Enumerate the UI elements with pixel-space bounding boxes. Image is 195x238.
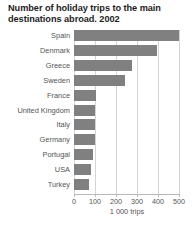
bar-fill xyxy=(74,30,179,41)
bar xyxy=(74,179,89,190)
x-axis-line xyxy=(74,194,180,195)
bar xyxy=(74,119,95,130)
x-tick-label: 300 xyxy=(131,197,143,206)
bar-fill xyxy=(74,149,93,160)
category-label: Germany xyxy=(0,134,70,145)
category-label: Italy xyxy=(0,119,70,130)
bar xyxy=(74,164,91,175)
category-label: Turkey xyxy=(0,179,70,190)
bar xyxy=(74,60,132,71)
bar-fill xyxy=(74,179,89,190)
x-tick-label: 200 xyxy=(110,197,122,206)
bar-fill xyxy=(74,134,95,145)
bar xyxy=(74,134,95,145)
x-axis-title: 1 000 trips xyxy=(74,207,180,216)
bar-fill xyxy=(74,90,96,101)
x-tick-label: 500 xyxy=(173,197,185,206)
category-label: USA xyxy=(0,164,70,175)
bar xyxy=(74,45,157,56)
bar xyxy=(74,75,125,86)
category-label: Sweden xyxy=(0,75,70,86)
bar-fill xyxy=(74,164,91,175)
bar xyxy=(74,30,179,41)
chart-title-line-2: destinations abroad. 2002 xyxy=(8,14,120,24)
category-label: Greece xyxy=(0,60,70,71)
category-label: United Kingdom xyxy=(0,105,70,116)
plot-area xyxy=(74,30,179,194)
chart-title-line-1: Number of holiday trips to the main xyxy=(8,3,161,13)
chart-title: Number of holiday trips to the main dest… xyxy=(8,3,190,26)
bar-fill xyxy=(74,119,95,130)
bar xyxy=(74,149,93,160)
bar xyxy=(74,105,95,116)
bar-fill xyxy=(74,45,157,56)
bar-chart: Number of holiday trips to the main dest… xyxy=(0,0,195,238)
category-label: France xyxy=(0,90,70,101)
x-tick-label: 400 xyxy=(152,197,164,206)
bar-fill xyxy=(74,75,125,86)
category-label: Denmark xyxy=(0,45,70,56)
bar-fill xyxy=(74,105,95,116)
x-tick-label: 100 xyxy=(89,197,101,206)
category-label: Spain xyxy=(0,30,70,41)
category-label: Portugal xyxy=(0,149,70,160)
x-tick-label: 0 xyxy=(72,197,76,206)
bar xyxy=(74,90,96,101)
gridline xyxy=(179,30,180,194)
bar-fill xyxy=(74,60,132,71)
